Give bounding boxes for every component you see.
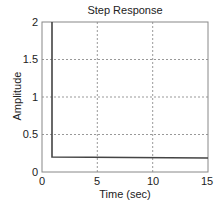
svg-text:0: 0 [39,175,45,187]
svg-text:0: 0 [32,166,38,178]
step-response-line [52,22,208,158]
svg-text:5: 5 [94,175,100,187]
svg-text:1.5: 1.5 [23,53,38,65]
svg-text:10: 10 [147,175,159,187]
svg-text:15: 15 [201,175,213,187]
svg-text:1: 1 [32,91,38,103]
svg-text:0.5: 0.5 [23,128,38,140]
plot-area: 0 0.5 1 1.5 2 0 5 10 15 [0,0,223,209]
svg-text:2: 2 [32,16,38,28]
